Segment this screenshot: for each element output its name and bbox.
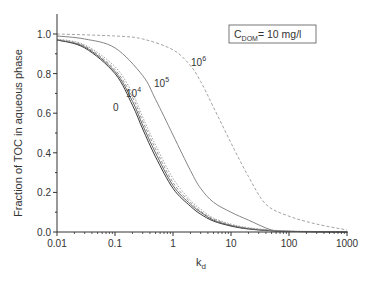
x-tick-label: 0.01 [47, 238, 67, 249]
y-tick-label: 0.8 [37, 69, 51, 80]
x-tick-label: 0.1 [108, 238, 122, 249]
y-axis-label: Fraction of TOC in aqueous phase [12, 49, 24, 217]
annotation-box: CDOM= 10 mg/l [229, 25, 316, 43]
x-tick-label: 10 [225, 238, 237, 249]
x-tick-label: 1000 [336, 238, 359, 249]
x-tick-label: 1 [170, 238, 176, 249]
y-tick-label: 0.6 [37, 108, 51, 119]
y-tick-label: 0.4 [37, 148, 51, 159]
y-tick-label: 0.0 [37, 227, 51, 238]
curve-label: 0 [113, 102, 119, 113]
x-tick-label: 100 [281, 238, 298, 249]
y-tick-label: 1.0 [37, 29, 51, 40]
y-tick-label: 0.2 [37, 187, 51, 198]
chart: 0.00.20.40.60.81.0 0.010.11101001000 Fra… [0, 0, 373, 284]
